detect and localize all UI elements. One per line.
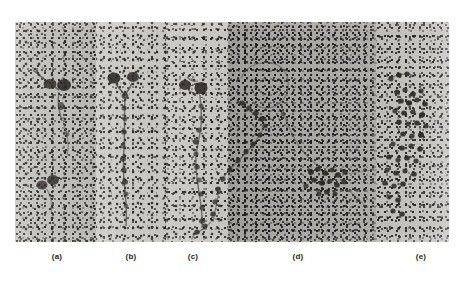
panel-label-a: (a) xyxy=(52,252,62,261)
panel-label-b: (b) xyxy=(126,252,137,261)
figure-root: (a) (b) (c) (d) (e) xyxy=(0,0,468,282)
micrograph-panel-d xyxy=(228,22,376,242)
micrograph-panel-c xyxy=(166,22,228,242)
panel-label-e: (e) xyxy=(416,252,426,261)
panel-e-grain-texture xyxy=(376,22,449,242)
micrograph-image-strip xyxy=(15,22,449,242)
panel-label-row: (a) (b) (c) (d) (e) xyxy=(0,252,468,270)
panel-label-d: (d) xyxy=(293,252,304,261)
micrograph-panel-a xyxy=(15,22,96,242)
panel-c-grain-texture xyxy=(166,22,228,242)
micrograph-panel-e xyxy=(376,22,449,242)
panel-a-grain-texture xyxy=(15,22,96,242)
micrograph-panel-b xyxy=(96,22,166,242)
panel-d-grain-texture xyxy=(228,22,376,242)
panel-b-grain-texture xyxy=(96,22,166,242)
panel-label-c: (c) xyxy=(188,252,198,261)
